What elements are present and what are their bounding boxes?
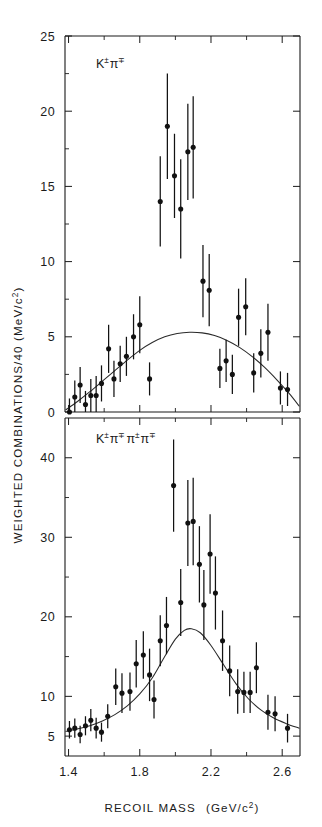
top-panel-label: K±π∓ [96,56,125,71]
data-point [217,349,222,388]
data-marker [88,393,93,398]
data-marker [111,376,116,381]
data-marker [201,602,206,607]
data-point [99,365,104,401]
data-marker [197,562,202,567]
panel-bottom: 510203040 1.41.82.22.6 K±π∓π±π∓ [40,418,300,779]
bottom-label-k-sup: ± [104,431,109,440]
svg-text:K±π∓: K±π∓ [96,56,125,71]
data-point [273,696,278,731]
data-point [224,340,229,382]
bottom-panel-ticks [65,418,300,756]
bottom-label-pi2-sup: ± [135,431,140,440]
x-axis-title: RECOIL MASS(GeV/c2) [104,801,259,814]
bottom-panel-label: K±π∓π±π∓ [96,431,156,446]
data-point [171,439,176,531]
bottom-panel-fit-curve [66,629,299,732]
data-marker [113,684,118,689]
data-point [147,362,152,395]
data-point [197,526,202,602]
data-point [113,669,118,706]
data-point [94,718,99,739]
y-tick-label: 15 [40,180,55,194]
data-marker [147,672,152,677]
data-marker [191,519,196,524]
data-point [201,570,206,640]
data-marker [67,727,72,732]
data-point [158,615,163,666]
data-marker [134,661,139,666]
data-point [99,723,104,742]
data-point [118,346,123,382]
data-marker [88,718,93,723]
data-marker [273,711,278,716]
data-marker [137,322,142,327]
bottom-panel-frame [65,418,300,756]
data-point [106,325,111,373]
y-tick-label: 30 [40,531,55,545]
data-point [200,245,205,317]
data-marker [285,726,290,731]
data-marker [227,668,232,673]
data-marker [224,358,229,363]
data-point [254,642,259,693]
data-point [285,373,290,406]
top-panel-data-points [67,74,290,415]
data-marker [248,690,253,695]
data-point [88,379,93,412]
data-marker [172,173,177,178]
data-marker [258,351,263,356]
data-marker [207,288,212,293]
data-point [94,376,99,412]
data-point [213,556,218,629]
data-point [111,361,116,397]
svg-text:WEIGHTED COMBINATIONS/40 (MeV: WEIGHTED COMBINATIONS/40 (MeV/c2) [11,287,24,544]
data-point [208,514,213,594]
data-marker [265,710,270,715]
y-tick-label: 40 [40,451,55,465]
figure-container: WEIGHTED COMBINATIONS/40 (MeV/c2) 051015… [0,0,322,827]
data-marker [124,354,129,359]
data-marker [158,638,163,643]
data-marker [118,361,123,366]
data-marker [254,665,259,670]
data-marker [165,124,170,129]
data-marker [127,689,132,694]
data-point [278,371,283,404]
svg-text:K±π∓π±π∓: K±π∓π±π∓ [96,431,156,446]
top-label-k-sup: ± [104,56,109,65]
data-marker [72,726,77,731]
data-point [220,610,225,670]
x-tick-label: 1.4 [59,765,78,779]
data-point [248,672,253,713]
data-point [172,134,177,218]
data-marker [185,149,190,154]
data-marker [78,382,83,387]
data-marker [164,623,169,628]
data-marker [278,385,283,390]
bottom-panel-x-tick-labels: 1.41.82.22.6 [59,765,291,779]
x-axis-units-main: (GeV/c [206,801,249,814]
data-marker [200,279,205,284]
top-panel-y-tick-labels: 0510152025 [40,30,55,420]
data-marker [158,199,163,204]
data-point [124,337,129,376]
svg-text:RECOIL MASS(GeV/c2): RECOIL MASS(GeV/c2) [104,801,259,814]
data-point [88,709,93,731]
data-marker [78,732,83,737]
data-marker [185,520,190,525]
bottom-panel-data-points [67,439,290,743]
data-marker [147,376,152,381]
data-point [185,480,190,566]
top-panel-frame [65,36,300,412]
data-marker [178,206,183,211]
data-point [185,104,190,200]
y-axis-title-close: ) [11,287,24,292]
recoil-mass-figure: WEIGHTED COMBINATIONS/40 (MeV/c2) 051015… [0,0,322,827]
y-axis-title-main: WEIGHTED COMBINATIONS/40 (MeV/c [11,297,24,543]
data-marker [105,714,110,719]
data-marker [106,346,111,351]
panel-top: 0510152025 K±π∓ [40,30,300,420]
data-point [178,569,183,636]
data-point [105,704,110,728]
